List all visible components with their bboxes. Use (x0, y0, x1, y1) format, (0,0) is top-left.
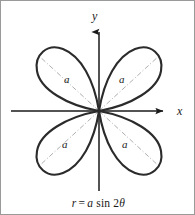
petal-upper-right (99, 47, 161, 111)
caption-a: a (87, 197, 93, 209)
caption-r: r (72, 197, 77, 209)
petal-lower-right (99, 111, 161, 175)
petal-label-lower-left: a (62, 139, 68, 150)
equation-caption: r=a sin 2θ (1, 197, 195, 209)
petal-label-upper-left: a (64, 74, 70, 85)
y-axis-label: y (92, 10, 97, 22)
petal-label-upper-right: a (119, 74, 125, 85)
petal-label-lower-right: a (122, 139, 128, 150)
caption-sin: sin (96, 197, 110, 209)
polar-rose-figure: y x a a a a r=a sin 2θ (0, 0, 195, 215)
caption-equals: = (77, 197, 88, 209)
caption-theta: θ (119, 197, 125, 209)
x-axis-label: x (177, 105, 182, 117)
rose-curve-plot (1, 1, 195, 215)
axis-lines (11, 32, 163, 191)
